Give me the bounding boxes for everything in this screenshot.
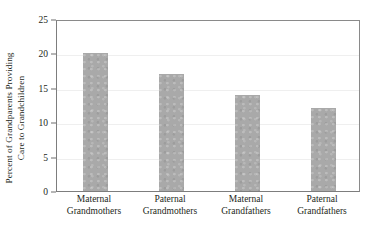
y-axis-tick-labels: 0510152025 (26, 20, 48, 192)
y-axis-tick-label: 20 (26, 49, 48, 59)
x-axis-category-label: PaternalGrandfathers (274, 194, 370, 217)
x-axis-category-label-line-2: Grandfathers (274, 206, 370, 218)
bar (159, 74, 184, 191)
y-axis-tick-label: 5 (26, 153, 48, 163)
y-axis-tick-label: 10 (26, 118, 48, 128)
x-axis-category-labels: MaternalGrandmothersPaternalGrandmothers… (56, 194, 360, 234)
bar-series (57, 21, 359, 191)
y-axis-tick-label: 25 (26, 15, 48, 25)
bar (235, 95, 260, 191)
y-axis-tick-label: 15 (26, 84, 48, 94)
bar (311, 108, 336, 191)
y-axis-title-line-1: Percent of Grandparents Providing (4, 52, 16, 183)
bar (83, 53, 108, 191)
y-axis-tick-label: 0 (26, 187, 48, 197)
x-axis-category-label-line-1: Paternal (274, 194, 370, 206)
y-axis-title-line-2: Care to Grandchildren (15, 52, 27, 183)
plot-area (56, 20, 360, 192)
bar-chart-figure: Percent of Grandparents Providing Care t… (0, 0, 375, 235)
